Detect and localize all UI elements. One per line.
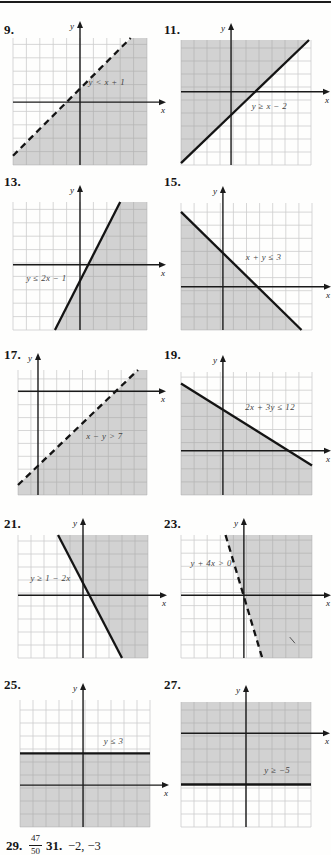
inequality-label: y < x + 1 [88,77,125,87]
inequality-graph: xyx − y > 7 [14,352,169,499]
x-axis-label: x [163,788,168,798]
inequality-label: x + y ≤ 3 [245,252,282,262]
y-axis-label: y [233,518,238,528]
inequality-graph: xyy < x + 1 [9,20,169,169]
x-axis-label: x [160,105,165,115]
x-axis-label: x [160,268,165,278]
inequality-label: x − y > 7 [85,431,123,441]
inequality-graph: xy2x + 3y ≤ 12 [177,354,331,499]
inequality-label: y ≤ 2x − 1 [25,273,66,283]
y-axis-arrow-icon [35,353,41,360]
x-axis-label: x [324,95,329,105]
y-axis-label: y [72,683,77,693]
y-axis-label: y [27,353,32,363]
x-axis-label: x [161,598,166,608]
y-axis-label: y [235,685,240,695]
inequality-label: y ≥ −5 [263,765,290,775]
fraction-numerator: 47 [28,834,43,843]
answer-31-value: −2, −3 [68,839,101,854]
y-axis-label: y [212,355,217,365]
y-axis-arrow-icon [77,185,83,192]
shaded-region [58,535,148,658]
inequality-graph: xyy ≥ 1 − 2x [14,517,170,662]
x-axis-label: x [325,454,330,464]
shaded-region [20,753,150,827]
inequality-graph: xyy ≥ −5 [177,684,331,831]
inequality-graph: xyx + y ≤ 3 [177,185,331,334]
y-axis-label: y [72,518,77,528]
inequality-graph: xyy ≤ 2x − 1 [9,184,169,334]
inequality-graph: xyy + 4x > 0 [177,517,331,662]
inequality-label: y ≥ 1 − 2x [29,573,70,583]
x-axis-label: x [324,736,329,746]
answer-number-31: 31. [46,838,62,854]
fraction-denominator: 50 [28,847,43,855]
y-axis-arrow-icon [220,186,226,193]
inequality-graph: xyy ≤ 3 [16,682,172,831]
graphs-grid: 9.xyy < x + 111.xyy ≥ x − 213.xyy ≤ 2x −… [0,0,331,855]
answers-row: 29. 47 50 31. −2, −3 [0,0,331,30]
y-axis-arrow-icon [241,518,247,525]
y-axis-label: y [212,186,217,196]
inequality-label: y ≤ 3 [103,736,124,746]
y-axis-label: y [69,185,74,195]
inequality-label: 2x + 3y ≤ 12 [245,402,295,412]
shaded-region [226,535,312,658]
y-axis-arrow-icon [80,518,86,525]
answer-number-29: 29. [6,838,22,854]
y-axis-arrow-icon [243,685,249,692]
inequality-label: y + 4x > 0 [189,558,231,568]
inequality-label: y ≥ x − 2 [251,101,288,111]
x-axis-label: x [325,290,330,300]
inequality-graph: xyy ≥ x − 2 [177,22,331,169]
x-axis-label: x [160,394,165,404]
shaded-region [55,202,147,330]
y-axis-arrow-icon [80,683,86,690]
x-axis-label: x [325,598,330,608]
y-axis-arrow-icon [220,355,226,362]
